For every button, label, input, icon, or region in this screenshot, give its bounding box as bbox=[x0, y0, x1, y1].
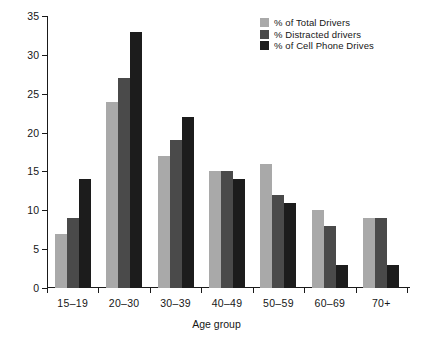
bar bbox=[118, 78, 130, 288]
bar bbox=[170, 140, 182, 288]
x-axis-tick-label: 60–69 bbox=[314, 297, 345, 309]
x-axis-tick bbox=[407, 288, 408, 293]
bar bbox=[324, 226, 336, 288]
bar bbox=[272, 195, 284, 288]
bar-group bbox=[106, 32, 142, 288]
x-axis-tick bbox=[253, 288, 254, 293]
y-axis-tick-label: 35 bbox=[27, 10, 39, 22]
x-axis-title: Age group bbox=[0, 318, 433, 330]
bar bbox=[312, 210, 324, 288]
bar bbox=[336, 265, 348, 288]
x-axis-tick bbox=[304, 288, 305, 293]
bar bbox=[209, 171, 221, 288]
bar-group bbox=[158, 117, 194, 288]
bar-group bbox=[55, 179, 91, 288]
bar bbox=[260, 164, 272, 288]
bar bbox=[233, 179, 245, 288]
y-axis-tick-label: 0 bbox=[33, 282, 39, 294]
plot-area: 0510152025303515–1920–3030–3940–4950–596… bbox=[47, 16, 407, 288]
x-axis-tick bbox=[98, 288, 99, 293]
x-axis-tick bbox=[47, 288, 48, 293]
bar bbox=[375, 218, 387, 288]
bar-chart: % of Total Drivers% Distracted drivers% … bbox=[0, 0, 433, 344]
x-axis-tick bbox=[201, 288, 202, 293]
x-axis-tick-label: 50–59 bbox=[263, 297, 294, 309]
y-axis-tick-label: 25 bbox=[27, 88, 39, 100]
x-axis-tick bbox=[356, 288, 357, 293]
y-axis-tick bbox=[42, 55, 47, 56]
x-axis-tick-label: 15–19 bbox=[57, 297, 88, 309]
bar bbox=[130, 32, 142, 288]
y-axis-tick bbox=[42, 249, 47, 250]
x-axis-tick bbox=[150, 288, 151, 293]
y-axis-tick bbox=[42, 16, 47, 17]
bar-group bbox=[260, 164, 296, 288]
x-axis-tick-label: 40–49 bbox=[212, 297, 243, 309]
bar bbox=[67, 218, 79, 288]
bar bbox=[221, 171, 233, 288]
bar-group bbox=[209, 171, 245, 288]
x-axis-tick-label: 20–30 bbox=[109, 297, 140, 309]
bar bbox=[363, 218, 375, 288]
bar bbox=[387, 265, 399, 288]
y-axis-tick-label: 10 bbox=[27, 204, 39, 216]
y-axis-tick bbox=[42, 210, 47, 211]
bar-group bbox=[312, 210, 348, 288]
bar-group bbox=[363, 218, 399, 288]
y-axis-tick bbox=[42, 171, 47, 172]
bar bbox=[158, 156, 170, 288]
x-axis-tick-label: 30–39 bbox=[160, 297, 191, 309]
x-axis-tick-label: 70+ bbox=[372, 297, 391, 309]
bar bbox=[284, 203, 296, 288]
y-axis-tick-label: 30 bbox=[27, 49, 39, 61]
y-axis-tick-label: 15 bbox=[27, 165, 39, 177]
bar bbox=[106, 102, 118, 289]
bar bbox=[79, 179, 91, 288]
bar bbox=[182, 117, 194, 288]
y-axis-line bbox=[47, 16, 48, 288]
y-axis-tick bbox=[42, 133, 47, 134]
bar bbox=[55, 234, 67, 288]
y-axis-tick-label: 20 bbox=[27, 127, 39, 139]
y-axis-tick-label: 5 bbox=[33, 243, 39, 255]
y-axis-tick bbox=[42, 94, 47, 95]
